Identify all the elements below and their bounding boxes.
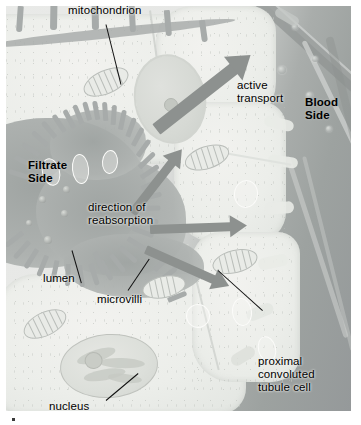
histology-figure: mitochondrion active transport Blood Sid… xyxy=(0,0,361,425)
microvillus xyxy=(50,6,58,30)
label-blood-side: Blood Side xyxy=(305,96,338,122)
solute-particle xyxy=(63,186,70,193)
basolateral-notch xyxy=(264,201,295,215)
label-active-transport: active transport xyxy=(237,79,283,105)
label-microvilli: microvilli xyxy=(97,293,142,306)
label-proximal-convoluted-tubule-cell: proximal convoluted tubule cell xyxy=(258,355,315,394)
label-filtrate-side: Filtrate Side xyxy=(28,159,67,185)
label-nucleus: nucleus xyxy=(49,400,89,413)
blood-cell xyxy=(278,66,286,74)
label-lumen: lumen xyxy=(43,272,75,285)
solute-particle xyxy=(26,220,32,226)
corner-registration-mark xyxy=(12,418,15,421)
label-mitochondrion: mitochondrion xyxy=(68,4,142,17)
solute-particle xyxy=(44,236,52,244)
reabsorption-arrow-right xyxy=(150,214,261,240)
label-direction-of-reabsorption: direction of reabsorption xyxy=(88,201,153,227)
solute-particle xyxy=(61,210,68,217)
blood-cell xyxy=(326,126,332,132)
micrograph-plate xyxy=(6,6,351,411)
blood-cell xyxy=(312,56,318,62)
solute-particle xyxy=(39,196,46,203)
